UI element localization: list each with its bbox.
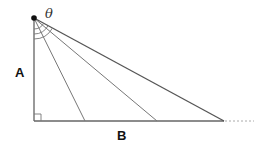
hypotenuse-line bbox=[34, 18, 224, 121]
right-angle-marker bbox=[34, 114, 41, 121]
angle-arc-1 bbox=[34, 23, 44, 29]
side-a-label: A bbox=[15, 65, 25, 80]
apex-vertex-dot bbox=[31, 15, 37, 21]
triangle-diagram: θ A B bbox=[0, 0, 267, 149]
ray-1 bbox=[34, 18, 85, 121]
angle-theta-label: θ bbox=[45, 6, 53, 21]
ray-2 bbox=[34, 18, 157, 121]
side-b-label: B bbox=[117, 128, 126, 143]
